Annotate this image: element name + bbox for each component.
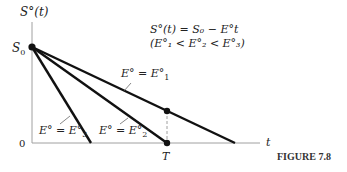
t-marker-label: T [162,150,171,163]
s0-point [28,43,35,50]
e1-leader [124,83,131,91]
figure-canvas: S°(t) S0 0 t T S°(t) = S₀ − E°t (E°₁ < E… [0,0,347,172]
s0-label: S0 [12,41,25,57]
e3-leader [60,116,70,124]
x-axis-label: t [266,136,271,149]
origin-label: 0 [19,138,25,149]
equation-2: (E°₁ < E°₂ < E°₃) [150,37,245,50]
e1-label: E° = E°1 [120,67,169,82]
e2-at-t-point [164,140,170,146]
e2-label: E° = E°2 [98,124,147,139]
e1-at-t-point [164,108,170,114]
y-axis-label: S°(t) [20,5,49,19]
figure-caption: FIGURE 7.8 [277,151,331,162]
e3-label: E° = E°3 [38,124,87,139]
equation-1: S°(t) = S₀ − E°t [150,23,239,36]
